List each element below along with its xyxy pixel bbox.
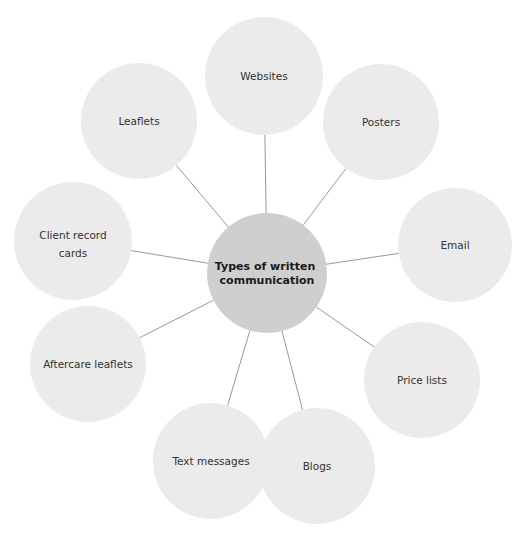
node-label: Leaflets (118, 115, 159, 127)
node-label: Blogs (303, 460, 332, 472)
connector-line-email (326, 253, 398, 264)
node-label-line: Blogs (303, 460, 332, 472)
node-price-lists: Price lists (364, 322, 480, 438)
node-client-record-cards: Client recordcards (14, 182, 132, 300)
node-label-line: Aftercare leaflets (43, 358, 133, 370)
node-text-messages: Text messages (153, 403, 269, 519)
node-email: Email (398, 188, 512, 302)
mind-map-diagram: WebsitesPostersEmailPrice listsBlogsText… (0, 0, 524, 536)
connector-line-posters (303, 168, 346, 225)
node-blogs: Blogs (259, 408, 375, 524)
center-label: Types of written communication (215, 260, 319, 287)
center-circle (207, 213, 327, 333)
node-aftercare-leaflets: Aftercare leaflets (30, 306, 146, 422)
node-label: Email (440, 239, 469, 251)
node-label-line: Client record (39, 229, 106, 241)
node-posters: Posters (323, 64, 439, 180)
connector-line-text-messages (228, 331, 250, 406)
node-label-line: Price lists (397, 374, 447, 386)
node-label-line: cards (59, 247, 87, 259)
node-label: Posters (362, 116, 400, 128)
connector-line-client-record-cards (131, 251, 208, 264)
connector-line-aftercare-leaflets (140, 300, 214, 338)
node-label: Price lists (397, 374, 447, 386)
node-leaflets: Leaflets (81, 63, 197, 179)
node-label: Websites (240, 70, 287, 82)
node-label-line: Websites (240, 70, 287, 82)
node-label: Text messages (171, 455, 249, 467)
node-label-line: Posters (362, 116, 400, 128)
node-websites: Websites (205, 17, 323, 135)
connector-line-leaflets (176, 165, 228, 227)
center-label-line: communication (220, 274, 315, 287)
node-label: Aftercare leaflets (43, 358, 133, 370)
connector-line-blogs (282, 331, 303, 410)
node-label-line: Text messages (171, 455, 249, 467)
node-circle (14, 182, 132, 300)
node-label-line: Email (440, 239, 469, 251)
connector-line-price-lists (316, 307, 374, 347)
center-node: Types of written communication (207, 213, 327, 333)
node-label-line: Leaflets (118, 115, 159, 127)
connector-line-websites (265, 135, 266, 213)
center-label-line: Types of written (215, 260, 315, 273)
